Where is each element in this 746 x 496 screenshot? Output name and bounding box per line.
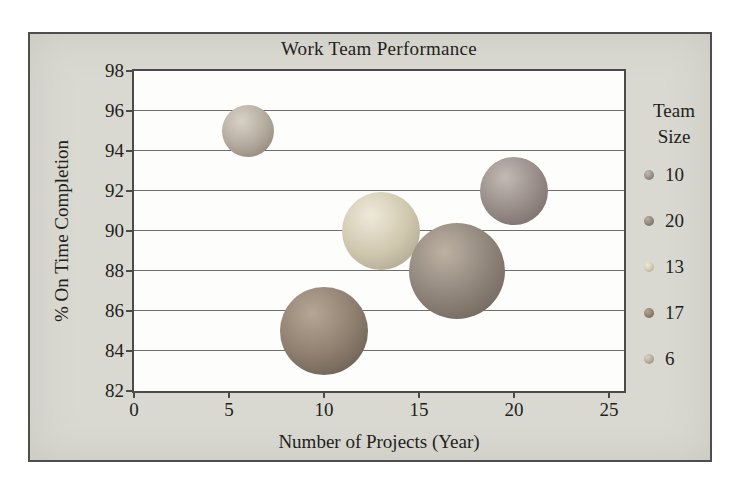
page: { "figure": { "background": "#d9d8d1", "… [0,0,746,496]
chart-frame: Work Team Performance % On Time Completi… [28,32,712,462]
x-tick-mark-25 [608,391,610,398]
legend-entry-6: 6 [644,349,720,369]
x-tick-mark-0 [133,391,135,398]
legend-bullet-icon-13 [644,262,654,272]
legend-entry-20: 20 [644,211,720,231]
gridline-86 [134,310,624,311]
x-tick-label-10: 10 [302,399,346,421]
y-tick-label-88: 88 [84,260,124,282]
y-tick-mark-98 [126,70,134,72]
y-tick-label-92: 92 [84,180,124,202]
y-tick-label-90: 90 [84,220,124,242]
legend: Team Size 102013176 [628,98,720,369]
y-tick-mark-86 [126,310,134,312]
bubble-team-size-20 [409,223,505,319]
legend-bullet-icon-17 [644,308,654,318]
gridline-88 [134,270,624,271]
y-tick-mark-94 [126,150,134,152]
x-tick-mark-20 [513,391,515,398]
y-axis-title: % On Time Completion [51,140,73,322]
bubble-team-size-17 [280,287,368,375]
x-tick-label-5: 5 [207,399,251,421]
x-tick-mark-10 [323,391,325,398]
x-tick-label-0: 0 [112,399,156,421]
legend-title-line-2: Size [628,124,720,150]
y-tick-label-84: 84 [84,340,124,362]
x-tick-label-25: 25 [587,399,631,421]
legend-entry-10: 10 [644,165,720,185]
x-tick-mark-15 [418,391,420,398]
bubble-team-size-10 [480,157,548,225]
gridline-92 [134,190,624,191]
x-tick-mark-5 [228,391,230,398]
legend-title-line-1: Team [628,98,720,124]
x-tick-label-15: 15 [397,399,441,421]
legend-title: Team Size [628,98,720,150]
y-tick-mark-90 [126,230,134,232]
bubble-team-size-13 [342,192,420,270]
chart-title: Work Team Performance [132,37,626,61]
legend-bullet-icon-20 [644,216,654,226]
y-tick-label-94: 94 [84,140,124,162]
legend-label-20: 20 [665,211,684,231]
gridline-94 [134,150,624,151]
y-tick-mark-88 [126,270,134,272]
legend-label-6: 6 [665,349,675,369]
legend-label-17: 17 [665,303,684,323]
legend-label-13: 13 [665,257,684,277]
legend-entry-13: 13 [644,257,720,277]
x-tick-label-20: 20 [492,399,536,421]
legend-bullet-icon-10 [644,170,654,180]
y-tick-label-98: 98 [84,60,124,82]
x-axis-title: Number of Projects (Year) [132,430,626,454]
y-tick-mark-84 [126,350,134,352]
y-tick-label-96: 96 [84,100,124,122]
gridline-96 [134,110,624,111]
y-tick-mark-96 [126,110,134,112]
legend-entries: 102013176 [628,165,720,369]
y-tick-mark-92 [126,190,134,192]
legend-entry-17: 17 [644,303,720,323]
gridline-84 [134,350,624,351]
bubble-team-size-6 [222,105,274,157]
legend-bullet-icon-6 [644,354,654,364]
plot-area: 8284868890929496980510152025 [132,69,626,393]
y-tick-label-86: 86 [84,300,124,322]
legend-label-10: 10 [665,165,684,185]
